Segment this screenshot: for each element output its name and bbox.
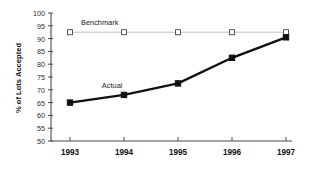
y-tick-label: 50	[37, 137, 45, 146]
x-tick-label: 1994	[115, 148, 134, 157]
data-point-benchmark	[230, 30, 235, 35]
y-tick-label: 75	[37, 73, 45, 82]
y-tick-labels: 100 95 90 85 80 75 70 65 60 55 50	[33, 9, 45, 146]
y-tick-label: 100	[33, 9, 45, 18]
benchmark-series-label: Benchmark	[81, 18, 119, 27]
data-point-actual	[67, 100, 72, 105]
data-point-benchmark	[176, 30, 181, 35]
data-point-actual	[229, 55, 234, 60]
x-tick-label: 1997	[277, 148, 296, 157]
chart-container: % of Lots Accepted 100 95 90 85 80 75 70…	[0, 0, 313, 171]
series-benchmark	[68, 30, 289, 35]
y-axis-title-group: % of Lots Accepted	[14, 43, 23, 114]
y-tick-label: 95	[37, 22, 45, 31]
y-tick-label: 65	[37, 99, 45, 108]
data-point-actual	[175, 81, 180, 86]
y-tick-label: 70	[37, 86, 45, 95]
y-tick-label: 80	[37, 60, 45, 69]
data-point-benchmark	[68, 30, 73, 35]
series-annotations: Benchmark Actual	[81, 18, 123, 90]
y-axis-title: % of Lots Accepted	[14, 43, 23, 114]
y-tick-label: 60	[37, 111, 45, 120]
y-tick-label: 85	[37, 47, 45, 56]
data-point-actual	[121, 92, 126, 97]
x-tick-labels: 1993 1994 1995 1996 1997	[61, 148, 296, 157]
y-tick-label: 90	[37, 35, 45, 44]
x-tick-label: 1995	[169, 148, 188, 157]
x-tick-marks	[70, 137, 286, 141]
x-tick-label: 1993	[61, 148, 80, 157]
actual-series-label: Actual	[102, 81, 123, 90]
data-point-benchmark	[284, 30, 289, 35]
x-tick-label: 1996	[223, 148, 242, 157]
series-line-actual	[70, 37, 286, 102]
data-point-actual	[283, 35, 288, 40]
series-layer	[67, 30, 288, 106]
line-chart: % of Lots Accepted 100 95 90 85 80 75 70…	[0, 0, 313, 171]
series-actual	[67, 35, 288, 106]
data-point-benchmark	[122, 30, 127, 35]
y-tick-label: 55	[37, 124, 45, 133]
